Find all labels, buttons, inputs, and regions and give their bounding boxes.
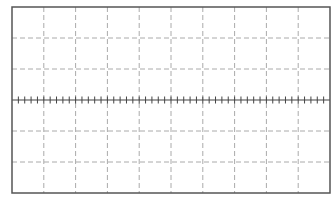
- background: [0, 0, 331, 205]
- oscilloscope-graticule: [0, 0, 331, 205]
